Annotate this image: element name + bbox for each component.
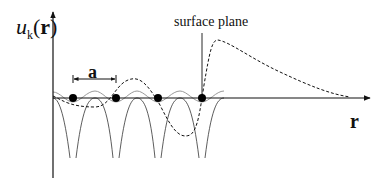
y-axis-label: uk(r) <box>16 14 57 40</box>
atom <box>69 94 77 102</box>
core-wavefunction-curves <box>53 98 224 158</box>
atom <box>112 94 120 102</box>
dashed-wavefunction <box>53 40 350 136</box>
x-axis-label: r <box>350 110 359 133</box>
atom <box>198 94 206 102</box>
surface-plane-label: surface plane <box>174 14 248 30</box>
paren-close: ) <box>50 14 57 39</box>
y-symbol: u <box>16 14 27 39</box>
y-subscript: k <box>27 28 33 42</box>
atom <box>154 94 162 102</box>
y-arg: r <box>40 14 50 39</box>
lattice-constant-label: a <box>88 62 97 83</box>
